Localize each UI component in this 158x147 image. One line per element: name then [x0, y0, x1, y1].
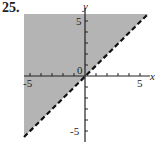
inequality-graph: y x 0 -5 5 5 -5 — [0, 0, 158, 147]
y-axis-label: y — [82, 0, 88, 12]
x-tick-label-neg: -5 — [23, 77, 33, 89]
x-axis-label: x — [149, 70, 155, 82]
y-tick-label-neg: -5 — [70, 125, 80, 137]
y-tick-label-pos: 5 — [76, 15, 82, 27]
origin-label: 0 — [77, 64, 83, 76]
x-tick-label-pos: 5 — [137, 77, 143, 89]
